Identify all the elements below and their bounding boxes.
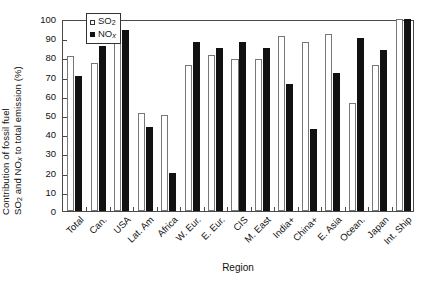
bar-nox bbox=[310, 129, 317, 211]
bar-so2 bbox=[325, 34, 332, 211]
bar-group bbox=[138, 21, 153, 211]
bar-so2 bbox=[278, 36, 285, 211]
y-tick-mark bbox=[63, 98, 67, 99]
y-tick-mark bbox=[63, 155, 67, 156]
y-tick-label: 30 bbox=[30, 149, 56, 159]
y-tick-label: 10 bbox=[30, 188, 56, 198]
legend-entry-so2: SO2 bbox=[90, 16, 116, 29]
bar-group bbox=[349, 21, 364, 211]
bar-so2 bbox=[372, 65, 379, 211]
bar-nox bbox=[404, 19, 411, 211]
x-tick-mark bbox=[274, 207, 275, 211]
bar-nox bbox=[239, 42, 246, 211]
x-tick-mark bbox=[368, 207, 369, 211]
bar-nox bbox=[380, 50, 387, 211]
plot-area bbox=[62, 20, 414, 212]
bar-so2 bbox=[396, 19, 403, 211]
y-tick-label: 60 bbox=[30, 92, 56, 102]
bar-nox bbox=[333, 73, 340, 211]
bar-nox bbox=[357, 38, 364, 211]
y-tick-mark bbox=[63, 194, 67, 195]
bar-group bbox=[231, 21, 246, 211]
bar-nox bbox=[193, 42, 200, 211]
legend: SO2 NOx bbox=[86, 13, 121, 44]
legend-swatch-so2-icon bbox=[90, 20, 95, 25]
bar-group bbox=[114, 21, 129, 211]
y-tick-label: 40 bbox=[30, 130, 56, 140]
y-axis-title-line1: Contribution of fossil fuel bbox=[0, 66, 12, 215]
x-tick-mark bbox=[180, 207, 181, 211]
x-axis-title: Region bbox=[62, 262, 414, 273]
bar-nox bbox=[216, 48, 223, 211]
x-tick-mark bbox=[298, 207, 299, 211]
x-tick-mark bbox=[204, 207, 205, 211]
y-tick-label: 20 bbox=[30, 169, 56, 179]
bar-nox bbox=[75, 76, 82, 211]
y-tick-mark bbox=[63, 59, 67, 60]
bar-so2 bbox=[185, 65, 192, 211]
x-tick-label: Ocean. bbox=[338, 214, 367, 243]
y-axis-tick-labels: 1009080706050403020100 bbox=[30, 0, 56, 225]
bar-group bbox=[396, 21, 411, 211]
bar-group bbox=[302, 21, 317, 211]
x-tick-label: E. Eur. bbox=[198, 214, 226, 242]
bar-so2 bbox=[255, 59, 262, 211]
y-tick-label: 90 bbox=[30, 34, 56, 44]
bar-nox bbox=[146, 127, 153, 211]
x-tick-mark bbox=[157, 207, 158, 211]
bar-group bbox=[185, 21, 200, 211]
bar-nox bbox=[99, 46, 106, 211]
bar-so2 bbox=[114, 30, 121, 211]
bar-group bbox=[67, 21, 82, 211]
bar-so2 bbox=[67, 56, 74, 211]
bar-nox bbox=[122, 30, 129, 211]
y-axis-title-wrap: Contribution of fossil fuel SO2 and NOx … bbox=[0, 0, 34, 225]
x-tick-label: W. Eur. bbox=[173, 214, 202, 243]
legend-swatch-nox-icon bbox=[90, 32, 95, 37]
bar-nox bbox=[263, 48, 270, 211]
bars-container bbox=[63, 21, 413, 211]
y-tick-label: 70 bbox=[30, 73, 56, 83]
legend-entry-nox: NOx bbox=[90, 29, 116, 42]
x-axis-tick-labels: TotalCan.USALat. AmAfricaW. Eur.E. Eur.C… bbox=[62, 214, 414, 264]
bar-so2 bbox=[91, 63, 98, 211]
legend-label-nox: NOx bbox=[98, 29, 116, 42]
x-tick-mark bbox=[86, 207, 87, 211]
x-tick-mark bbox=[110, 207, 111, 211]
x-tick-mark bbox=[345, 207, 346, 211]
y-axis-title-line2: SO2 and NOx to total emission (%) bbox=[12, 66, 26, 215]
bar-so2 bbox=[208, 55, 215, 211]
bar-so2 bbox=[138, 113, 145, 211]
x-tick-mark bbox=[321, 207, 322, 211]
y-tick-mark bbox=[63, 175, 67, 176]
bar-so2 bbox=[302, 42, 309, 211]
y-tick-label: 100 bbox=[30, 15, 56, 25]
y-tick-label: 0 bbox=[30, 207, 56, 217]
x-tick-label: Total bbox=[64, 214, 86, 236]
bar-group bbox=[255, 21, 270, 211]
y-axis-title: Contribution of fossil fuel SO2 and NOx … bbox=[0, 66, 26, 215]
y-tick-label: 50 bbox=[30, 111, 56, 121]
bar-so2 bbox=[349, 103, 356, 211]
x-tick-mark bbox=[392, 207, 393, 211]
bar-group bbox=[372, 21, 387, 211]
bar-nox bbox=[286, 84, 293, 211]
bar-group bbox=[208, 21, 223, 211]
y-tick-label: 80 bbox=[30, 53, 56, 63]
bar-group bbox=[91, 21, 106, 211]
bar-chart: Contribution of fossil fuel SO2 and NOx … bbox=[0, 0, 424, 283]
bar-so2 bbox=[231, 59, 238, 211]
y-tick-mark bbox=[63, 79, 67, 80]
x-tick-label: Can. bbox=[87, 214, 109, 236]
y-tick-mark bbox=[63, 136, 67, 137]
bar-group bbox=[161, 21, 176, 211]
bar-group bbox=[278, 21, 293, 211]
x-tick-mark bbox=[227, 207, 228, 211]
x-tick-mark bbox=[133, 207, 134, 211]
bar-group bbox=[325, 21, 340, 211]
y-tick-mark bbox=[63, 40, 67, 41]
bar-nox bbox=[169, 173, 176, 211]
y-tick-mark bbox=[63, 117, 67, 118]
bar-so2 bbox=[161, 115, 168, 211]
x-tick-mark bbox=[251, 207, 252, 211]
